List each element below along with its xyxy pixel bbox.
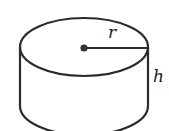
cylinder-diagram: r h (0, 0, 169, 131)
bottom-arc (20, 106, 148, 131)
radius-label: r (108, 22, 117, 42)
center-dot (80, 44, 87, 51)
height-label: h (153, 66, 164, 86)
cylinder-figure: r h (0, 0, 169, 131)
